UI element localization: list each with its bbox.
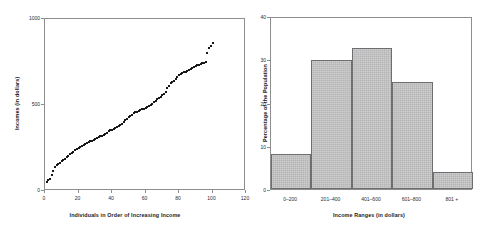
histogram-bar-texture (434, 173, 472, 188)
scatter-y-tickmark (41, 104, 44, 105)
histogram-plot-frame (270, 17, 472, 190)
scatter-point (173, 80, 175, 82)
histogram-y-tick-label: 0 (246, 187, 266, 193)
scatter-point (175, 78, 177, 80)
figure-canvas: 05001000 020406080100120 Incomes (in dol… (0, 0, 488, 235)
scatter-x-tick-label: 0 (32, 195, 56, 201)
scatter-x-axis-title: Individuals in Order of Increasing Incom… (0, 212, 250, 218)
income-histogram-panel: 010203040 0–200201–400401–600601–800801 … (250, 0, 488, 235)
histogram-bar-texture (393, 83, 431, 188)
scatter-point (210, 45, 212, 47)
histogram-category-label: 0–200 (270, 196, 310, 202)
scatter-x-tick-label: 100 (200, 195, 224, 201)
scatter-point (49, 178, 51, 180)
scatter-y-tick-label: 1000 (16, 15, 40, 21)
histogram-y-tickmark (267, 60, 270, 61)
scatter-point (123, 121, 125, 123)
scatter-point (67, 155, 69, 157)
scatter-x-tickmark (212, 190, 213, 193)
scatter-point (163, 93, 165, 95)
histogram-bar (311, 60, 351, 189)
scatter-point (165, 91, 167, 93)
scatter-y-axis-title: Incomes (in dollars) (14, 77, 20, 130)
histogram-x-axis-title: Income Ranges (in dollars) (250, 212, 488, 218)
scatter-point (54, 166, 56, 168)
histogram-y-tick-label: 30 (246, 57, 266, 63)
scatter-x-tickmark (145, 190, 146, 193)
histogram-y-tick-label: 10 (246, 144, 266, 150)
histogram-y-axis-title: Percentage of the Population (262, 64, 268, 142)
histogram-category-label: 201–400 (310, 196, 350, 202)
scatter-x-tickmark (44, 190, 45, 193)
scatter-x-tick-label: 80 (166, 195, 190, 201)
scatter-x-tickmark (178, 190, 179, 193)
histogram-y-tickmark (267, 147, 270, 148)
scatter-x-tick-label: 60 (133, 195, 157, 201)
scatter-point (52, 170, 54, 172)
scatter-points-layer (45, 19, 244, 189)
income-scatter-panel: 05001000 020406080100120 Incomes (in dol… (0, 0, 250, 235)
scatter-x-tick-label: 20 (66, 195, 90, 201)
scatter-point (124, 119, 126, 121)
histogram-category-label: 601–800 (391, 196, 431, 202)
histogram-bar (271, 154, 311, 189)
histogram-y-tick-label: 40 (246, 14, 266, 20)
histogram-bar-texture (312, 61, 350, 188)
scatter-plot-frame (44, 18, 245, 190)
histogram-category-label: 801 + (432, 196, 472, 202)
scatter-point (208, 47, 210, 49)
histogram-category-label: 401–600 (351, 196, 391, 202)
scatter-point (168, 85, 170, 87)
scatter-point (206, 52, 208, 54)
histogram-bar (433, 172, 473, 189)
histogram-bar-texture (353, 49, 391, 188)
scatter-y-tickmark (41, 18, 44, 19)
scatter-point (51, 174, 53, 176)
scatter-point (205, 61, 207, 63)
histogram-bar-texture (272, 155, 310, 188)
histogram-bar (352, 48, 392, 189)
histogram-y-tickmark (267, 190, 270, 191)
histogram-y-tickmark (267, 17, 270, 18)
scatter-point (212, 42, 214, 44)
scatter-y-tick-label: 0 (16, 187, 40, 193)
scatter-x-tickmark (111, 190, 112, 193)
scatter-x-tickmark (78, 190, 79, 193)
histogram-bar (392, 82, 432, 189)
scatter-point (176, 76, 178, 78)
scatter-x-tick-label: 40 (99, 195, 123, 201)
scatter-point (166, 87, 168, 89)
